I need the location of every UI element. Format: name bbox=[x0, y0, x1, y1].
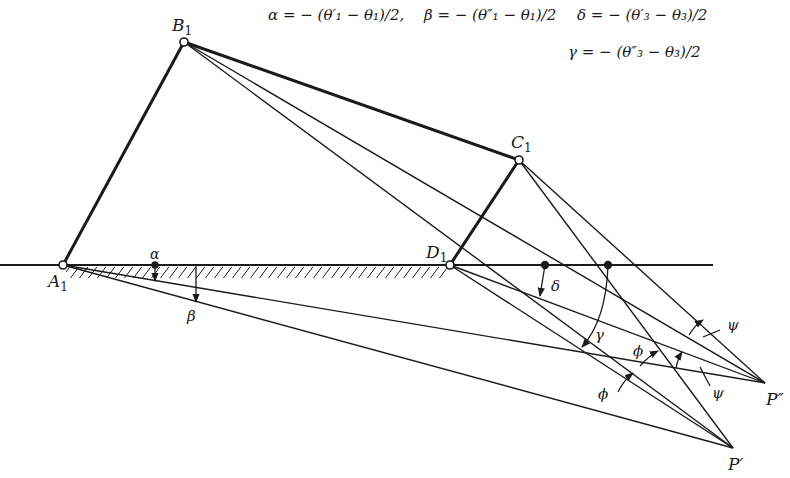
label-b1: B1 bbox=[171, 15, 192, 38]
pivot-c1 bbox=[515, 156, 523, 164]
pivots bbox=[59, 38, 523, 269]
label-p-double-prime: P″ bbox=[765, 389, 784, 409]
link-b1-c1 bbox=[184, 42, 519, 160]
angle-label-phi-upper: ϕ bbox=[633, 342, 643, 360]
equation-delta: δ = − (θ′₃ − θ₃)/2 bbox=[577, 6, 707, 24]
label-c1: C1 bbox=[511, 132, 532, 155]
label-d1: D1 bbox=[425, 242, 447, 265]
link-c1-d1 bbox=[450, 160, 519, 265]
ground-hatching bbox=[66, 267, 448, 278]
equation-alpha: α = − (θ′₁ − θ₁)/2, bbox=[268, 6, 404, 24]
pivot-b1 bbox=[180, 38, 188, 46]
construction-lines bbox=[63, 42, 765, 448]
angle-label-psi-lower: ψ bbox=[712, 384, 724, 402]
label-a1: A1 bbox=[46, 271, 68, 294]
linkage-bars bbox=[63, 42, 519, 265]
angle-label-delta: δ bbox=[551, 277, 560, 295]
angle-label-beta: β bbox=[186, 307, 196, 325]
label-p-prime: P′ bbox=[727, 454, 743, 474]
angle-label-psi-upper: ψ bbox=[727, 316, 739, 334]
angle-label-phi-lower: ϕ bbox=[598, 385, 608, 403]
equation-gamma: γ = − (θ″₃ − θ₃)/2 bbox=[568, 43, 701, 61]
angle-label-alpha: α bbox=[150, 246, 160, 262]
angle-arrows bbox=[152, 262, 720, 393]
linkage-diagram: A1 B1 C1 D1 P′ P″ α β δ γ ϕ ϕ ψ ψ bbox=[0, 0, 790, 478]
equation-beta: β = − (θ″₁ − θ₁)/2 bbox=[424, 6, 556, 24]
link-a1-b1 bbox=[63, 42, 184, 265]
pivot-a1 bbox=[59, 261, 67, 269]
angle-label-gamma: γ bbox=[595, 326, 604, 344]
